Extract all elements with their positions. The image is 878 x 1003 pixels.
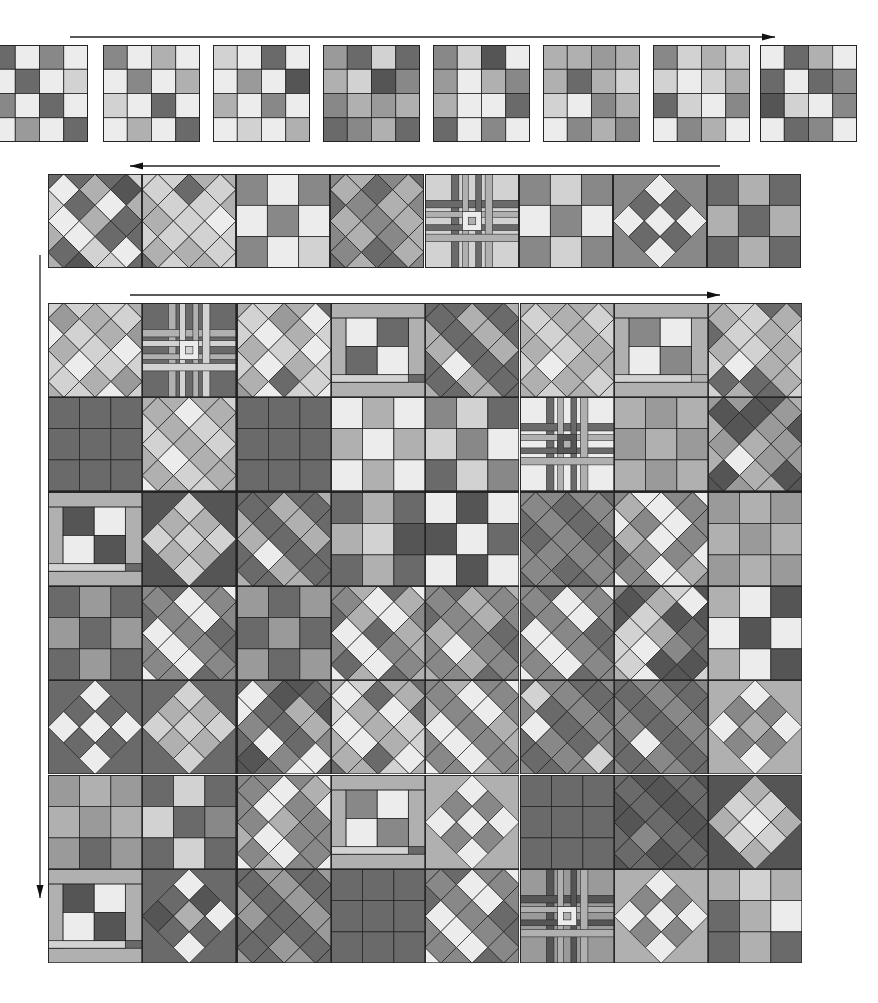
arrow-down-icon [0, 0, 878, 1003]
